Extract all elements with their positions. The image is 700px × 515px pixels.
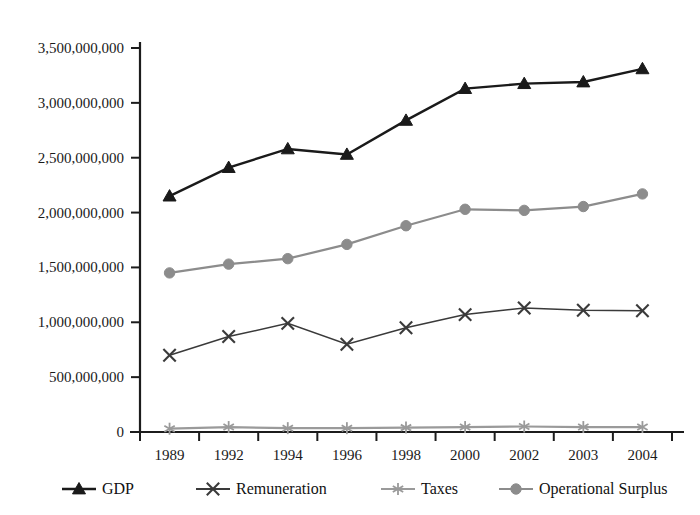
legend-item-operational-surplus[interactable]: Operational Surplus xyxy=(499,480,667,498)
line-chart-figure: 0500,000,0001,000,000,0001,500,000,0002,… xyxy=(0,0,700,515)
legend-item-remuneration[interactable]: Remuneration xyxy=(196,480,327,497)
y-tick-label: 3,500,000,000 xyxy=(38,40,124,56)
chart-canvas: 0500,000,0001,000,000,0001,500,000,0002,… xyxy=(0,0,700,515)
y-tick-label: 3,000,000,000 xyxy=(38,95,124,111)
marker-circle xyxy=(223,259,233,269)
series-line xyxy=(170,69,643,196)
legend-label: GDP xyxy=(102,480,134,497)
y-axis-tick-labels: 0500,000,0001,000,000,0001,500,000,0002,… xyxy=(38,40,124,440)
x-tick-label: 2004 xyxy=(627,447,658,463)
x-tick-label: 1996 xyxy=(332,447,363,463)
marker-circle xyxy=(283,253,293,263)
x-tick-label: 2002 xyxy=(509,447,539,463)
legend-item-gdp[interactable]: GDP xyxy=(62,480,134,497)
y-tick-label: 2,000,000,000 xyxy=(38,205,124,221)
x-tick-label: 1994 xyxy=(273,447,304,463)
legend-label: Operational Surplus xyxy=(539,480,667,498)
x-axis-tick-labels: 198919921994199619982000200220032004 xyxy=(155,447,658,463)
x-tick-label: 2003 xyxy=(568,447,598,463)
marker-triangle xyxy=(400,114,413,125)
x-tick-label: 1992 xyxy=(214,447,244,463)
marker-circle xyxy=(342,239,352,249)
marker-triangle xyxy=(163,190,176,201)
marker-circle xyxy=(519,205,529,215)
marker-circle xyxy=(401,221,411,231)
x-tick-label: 2000 xyxy=(450,447,480,463)
series-gdp xyxy=(163,62,649,201)
marker-triangle xyxy=(281,142,294,153)
y-tick-label: 0 xyxy=(117,424,125,440)
y-tick-label: 1,000,000,000 xyxy=(38,314,124,330)
marker-circle xyxy=(578,201,588,211)
series-remuneration xyxy=(163,302,648,362)
legend-item-taxes[interactable]: Taxes xyxy=(381,480,458,497)
marker-circle xyxy=(460,204,470,214)
marker-x xyxy=(163,349,175,361)
series-line xyxy=(170,308,643,355)
series-operational-surplus xyxy=(164,189,647,278)
marker-x xyxy=(400,322,412,334)
y-axis-ticks xyxy=(131,48,140,432)
legend-label: Taxes xyxy=(421,480,458,497)
marker-triangle xyxy=(636,62,649,73)
x-tick-label: 1989 xyxy=(155,447,185,463)
x-tick-label: 1998 xyxy=(391,447,421,463)
legend-label: Remuneration xyxy=(236,480,327,497)
y-axis-group: 0500,000,0001,000,000,0001,500,000,0002,… xyxy=(38,40,140,440)
marker-circle xyxy=(511,484,521,494)
y-tick-label: 2,500,000,000 xyxy=(38,150,124,166)
y-tick-label: 500,000,000 xyxy=(49,369,124,385)
data-series-layer xyxy=(163,62,649,434)
marker-circle xyxy=(637,189,647,199)
series-line xyxy=(170,194,643,273)
marker-x xyxy=(341,338,353,350)
y-tick-label: 1,500,000,000 xyxy=(38,259,124,275)
marker-x xyxy=(222,330,234,342)
marker-circle xyxy=(164,268,174,278)
x-axis-group: 198919921994199619982000200220032004 xyxy=(130,432,684,463)
marker-x xyxy=(282,317,294,329)
chart-legend: GDPRemunerationTaxesOperational Surplus xyxy=(62,480,667,498)
